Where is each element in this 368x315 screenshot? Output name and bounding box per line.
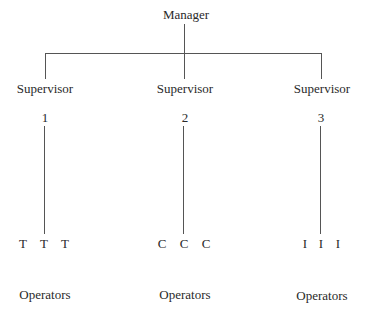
operator-2b: C [180,237,189,251]
supervisor-1-number: 1 [42,111,49,125]
operators-2-connector [183,126,184,234]
operator-3c: I [336,237,340,251]
operator-1c: T [61,237,69,251]
operator-1b: T [40,237,48,251]
operator-3b: I [319,237,323,251]
supervisor-3-drop [321,53,322,79]
supervisor-1-drop [45,53,46,79]
operators-2-label: Operators [159,288,210,302]
supervisor-3-number: 3 [318,111,325,125]
operator-3a: I [303,237,307,251]
operator-2a: C [158,237,167,251]
operators-3-connector [320,126,321,234]
operator-1a: T [19,237,27,251]
operator-2c: C [202,237,211,251]
manager-node: Manager [163,8,209,22]
operators-1-connector [44,126,45,234]
supervisor-bus-line [45,53,322,54]
operators-1-label: Operators [19,288,70,302]
supervisor-2-number: 2 [182,111,189,125]
supervisor-1-label: Supervisor [17,82,73,96]
supervisor-2-label: Supervisor [157,82,213,96]
supervisor-3-label: Supervisor [294,82,350,96]
manager-connector [184,24,185,79]
operators-3-label: Operators [296,289,347,303]
